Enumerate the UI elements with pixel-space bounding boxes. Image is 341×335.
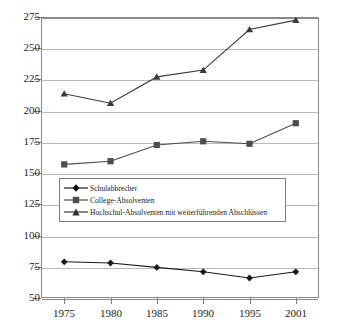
series-2 [61, 120, 299, 167]
marker-diamond [292, 268, 299, 275]
series-1 [61, 258, 299, 281]
marker-diamond [200, 268, 207, 275]
marker-diamond [107, 260, 114, 267]
x-tick-label-1990: 1990 [183, 307, 223, 319]
legend-item-college-absolventen: College-Absolventen [63, 194, 281, 206]
chart-container: 5075100125150175200225250275 19751980198… [0, 0, 341, 335]
legend-key-diamond-icon [63, 182, 89, 194]
data-series-layer [41, 17, 319, 298]
x-tick-label-1975: 1975 [44, 307, 84, 319]
series-3 [61, 17, 300, 106]
y-tick-label-175: 175 [6, 136, 40, 147]
x-tick-1975 [64, 298, 65, 304]
x-tick-label-1980: 1980 [91, 307, 131, 319]
marker-triangle [61, 90, 68, 96]
marker-diamond [246, 275, 253, 282]
y-tick-label-75: 75 [6, 261, 40, 272]
legend-key-triangle-icon [63, 206, 89, 218]
marker-square [200, 138, 206, 144]
y-tick-label-150: 150 [6, 167, 40, 178]
y-tick-label-200: 200 [6, 105, 40, 116]
x-tick-1980 [111, 298, 112, 304]
legend-key-square-icon [63, 194, 89, 206]
x-tick-2001 [296, 298, 297, 304]
x-tick-1985 [157, 298, 158, 304]
y-tick-label-100: 100 [6, 230, 40, 241]
x-tick-label-2001: 2001 [276, 307, 316, 319]
legend-label-college-absolventen: College-Absolventen [89, 196, 155, 205]
series-line [64, 20, 296, 103]
marker-triangle [292, 17, 299, 23]
legend-item-schulabbrecher: Schulabbrecher [63, 182, 281, 194]
series-line [64, 262, 296, 278]
marker-diamond [153, 264, 160, 271]
x-tick-1990 [203, 298, 204, 304]
y-tick-label-275: 275 [6, 11, 40, 22]
marker-square [246, 141, 252, 147]
y-tick-label-125: 125 [6, 198, 40, 209]
legend-item-hochschul-absolventen: Hochschul-Absolventen mit weiterführende… [63, 206, 281, 218]
chart-legend: Schulabbrecher College-Absolventen Hochs… [59, 178, 286, 222]
gridline-50 [42, 299, 318, 300]
x-tick-1995 [250, 298, 251, 304]
legend-label-hochschul-absolventen: Hochschul-Absolventen mit weiterführende… [89, 208, 267, 217]
y-tick-label-250: 250 [6, 42, 40, 53]
x-tick-label-1995: 1995 [230, 307, 270, 319]
marker-square [154, 142, 160, 148]
marker-square [293, 120, 299, 126]
marker-diamond [61, 258, 68, 265]
marker-square [107, 158, 113, 164]
y-tick-label-50: 50 [6, 292, 40, 303]
marker-square [61, 161, 67, 167]
legend-label-schulabbrecher: Schulabbrecher [89, 184, 137, 193]
y-tick-label-225: 225 [6, 73, 40, 84]
x-tick-label-1985: 1985 [137, 307, 177, 319]
series-line [64, 123, 296, 164]
